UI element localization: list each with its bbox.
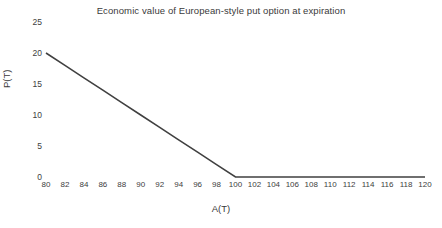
y-tick-label: 15	[12, 80, 42, 88]
plot-area	[46, 22, 425, 177]
series-line-put-payoff	[46, 22, 425, 177]
chart-container: Economic value of European-style put opt…	[0, 0, 442, 228]
y-tick-label: 5	[12, 142, 42, 150]
y-axis-tick-labels: 0510152025	[8, 0, 42, 228]
x-axis-label: A(T)	[0, 203, 442, 214]
y-tick-label: 25	[12, 18, 42, 26]
chart-title: Economic value of European-style put opt…	[0, 5, 442, 16]
y-tick-label: 20	[12, 49, 42, 57]
y-axis-label: P(T)	[1, 70, 12, 88]
x-axis-tick-labels: 8082848688909294969810010210410610811011…	[0, 180, 442, 192]
y-tick-label: 10	[12, 111, 42, 119]
x-tick-label: 120	[413, 180, 437, 189]
